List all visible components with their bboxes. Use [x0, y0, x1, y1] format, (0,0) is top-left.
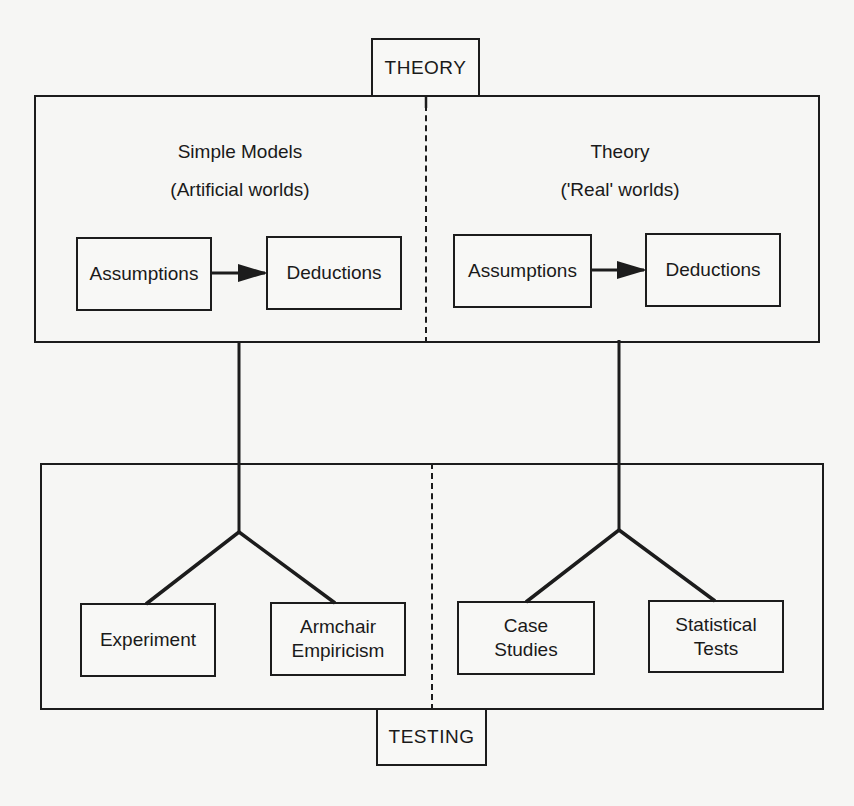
case-studies-box: Case Studies [457, 601, 595, 675]
armchair-label-line2: Empiricism [292, 639, 385, 663]
case-studies-line1: Case [504, 614, 548, 638]
statistical-tests-line1: Statistical [675, 613, 756, 637]
testing-divider [431, 463, 433, 710]
statistical-tests-line2: Tests [694, 637, 738, 661]
right-assumptions-label: Assumptions [468, 259, 577, 283]
right-deductions-box: Deductions [645, 233, 781, 307]
theory-divider [425, 95, 427, 343]
simple-models-heading: Simple Models (Artificial worlds) [60, 133, 420, 209]
real-theory-heading: Theory ('Real' worlds) [440, 133, 800, 209]
experiment-box: Experiment [80, 603, 216, 677]
armchair-label-line1: Armchair [300, 615, 376, 639]
simple-models-title: Simple Models [60, 133, 420, 171]
real-theory-subtitle: ('Real' worlds) [440, 171, 800, 209]
left-deductions-label: Deductions [286, 261, 381, 285]
real-theory-title: Theory [440, 133, 800, 171]
testing-label: TESTING [376, 708, 487, 766]
left-deductions-box: Deductions [266, 236, 402, 310]
right-deductions-label: Deductions [665, 258, 760, 282]
left-assumptions-label: Assumptions [90, 262, 199, 286]
case-studies-line2: Studies [494, 638, 557, 662]
armchair-empiricism-box: Armchair Empiricism [270, 602, 406, 676]
statistical-tests-box: Statistical Tests [648, 600, 784, 673]
theory-label: THEORY [371, 38, 480, 97]
right-assumptions-box: Assumptions [453, 234, 592, 308]
experiment-label: Experiment [100, 628, 196, 652]
simple-models-subtitle: (Artificial worlds) [60, 171, 420, 209]
left-assumptions-box: Assumptions [76, 237, 212, 311]
